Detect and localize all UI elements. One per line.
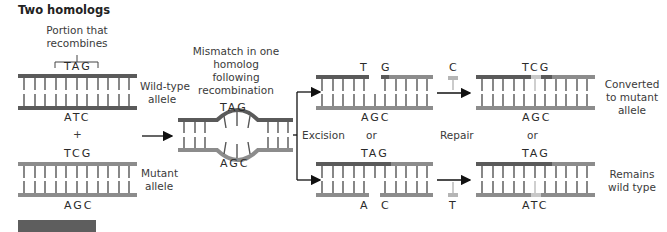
excA-top-t: T — [360, 61, 369, 74]
mutant-label-line1: Mutant — [141, 167, 178, 180]
excB-bottom-a: A — [360, 199, 370, 212]
mismatch-label-line1: Mismatch in one — [188, 45, 284, 58]
mismatch-label-line3: following — [188, 71, 284, 84]
mismatch-top-bases: TAG — [220, 101, 248, 114]
excA-bottom-bases: AGC — [361, 111, 391, 124]
excA-top-g: G — [381, 61, 392, 74]
wt-top-bases: TAG — [64, 60, 92, 73]
excision-a-duplex — [316, 75, 458, 110]
mut-top-bases: TCG — [64, 147, 92, 160]
repair-a-free-base: C — [449, 61, 459, 74]
mismatch-label-line2: homolog — [188, 58, 284, 71]
mutant-homolog — [18, 162, 137, 197]
or-label-middle: or — [366, 129, 377, 142]
or-label-right: or — [527, 129, 538, 142]
wild-type-label-line2: allele — [148, 93, 176, 106]
repair-b-free-base: T — [449, 199, 458, 212]
diagram-title: Two homologs — [18, 4, 110, 17]
resA-bottom-bases: AGC — [522, 111, 552, 124]
mutant-label-line2: allele — [145, 180, 173, 193]
repair-label: Repair — [440, 129, 474, 142]
portion-label-line2: recombines — [34, 37, 120, 50]
mismatch-label-line4: recombination — [188, 84, 284, 97]
excB-top-bases: TAG — [361, 147, 389, 160]
remains-label-line1: Remains — [597, 168, 667, 181]
gray-block — [18, 220, 96, 232]
converted-label-line1: Converted — [597, 78, 667, 91]
resB-bottom-bases: ATC — [522, 199, 548, 212]
resA-top-bases: TCG — [522, 61, 550, 74]
wild-type-homolog — [18, 74, 137, 110]
portion-label-line1: Portion that — [34, 24, 120, 37]
mut-bottom-bases: AGC — [64, 199, 94, 212]
mismatch-heteroduplex — [178, 110, 293, 160]
resB-top-bases: TAG — [522, 147, 550, 160]
result-wildtype-duplex — [476, 162, 595, 197]
wild-type-label-line1: Wild-type — [140, 80, 190, 93]
remains-label-line2: wild type — [597, 181, 667, 194]
mismatch-bottom-bases: AGC — [220, 157, 250, 170]
wt-bottom-bases: ATC — [64, 111, 90, 124]
result-converted-duplex — [476, 75, 595, 110]
excision-b-duplex — [316, 162, 458, 197]
converted-label-line2: to mutant — [597, 91, 667, 104]
converted-label-line3: allele — [597, 104, 667, 117]
plus-sign: + — [73, 128, 82, 141]
excision-label: Excision — [302, 129, 345, 142]
excB-bottom-c: C — [381, 199, 391, 212]
